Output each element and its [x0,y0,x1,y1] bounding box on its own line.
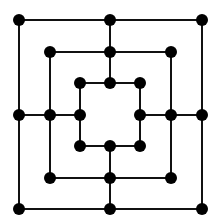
board-point-inner-5[interactable] [104,140,116,152]
board-point-inner-7[interactable] [74,109,86,121]
board-point-inner-0[interactable] [74,77,86,89]
board-point-outer-0[interactable] [13,14,25,26]
board-point-inner-3[interactable] [134,109,146,121]
board-point-middle-1[interactable] [104,46,116,58]
board-point-middle-4[interactable] [165,172,177,184]
inner-square [80,83,140,146]
board-point-middle-2[interactable] [165,46,177,58]
board-point-middle-0[interactable] [44,46,56,58]
board-point-inner-2[interactable] [134,77,146,89]
board-point-outer-4[interactable] [196,203,208,215]
board-point-outer-7[interactable] [13,109,25,121]
board-point-middle-7[interactable] [44,109,56,121]
board-point-inner-1[interactable] [104,77,116,89]
board-point-middle-3[interactable] [165,109,177,121]
board-point-inner-6[interactable] [74,140,86,152]
board-point-inner-4[interactable] [134,140,146,152]
board-point-outer-2[interactable] [196,14,208,26]
board-point-outer-1[interactable] [104,14,116,26]
morris-board [0,0,220,223]
board-point-outer-3[interactable] [196,109,208,121]
board-point-outer-6[interactable] [13,203,25,215]
board-point-middle-6[interactable] [44,172,56,184]
board-point-outer-5[interactable] [104,203,116,215]
board-point-middle-5[interactable] [104,172,116,184]
